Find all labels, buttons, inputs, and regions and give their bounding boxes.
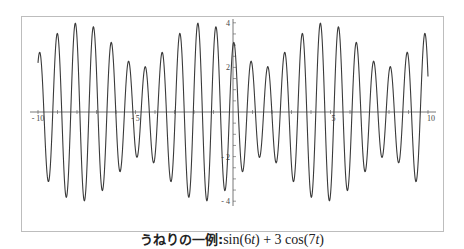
line-chart: - 10- 5510- 4- 224 (0, 0, 464, 249)
chart-caption: うねりの一例:sin(6t) + 3 cos(7t) (0, 229, 464, 248)
y-tick-label: 2 (226, 63, 230, 72)
x-tick-label: - 5 (131, 114, 140, 123)
caption-formula: sin(6t) + 3 cos(7t) (223, 232, 324, 247)
caption-japanese-text: うねりの一例: (140, 232, 223, 247)
x-tick-label: - 10 (32, 114, 45, 123)
x-tick-label: 10 (427, 114, 435, 123)
y-tick-label: - 4 (221, 197, 230, 206)
y-tick-label: 4 (226, 19, 230, 28)
